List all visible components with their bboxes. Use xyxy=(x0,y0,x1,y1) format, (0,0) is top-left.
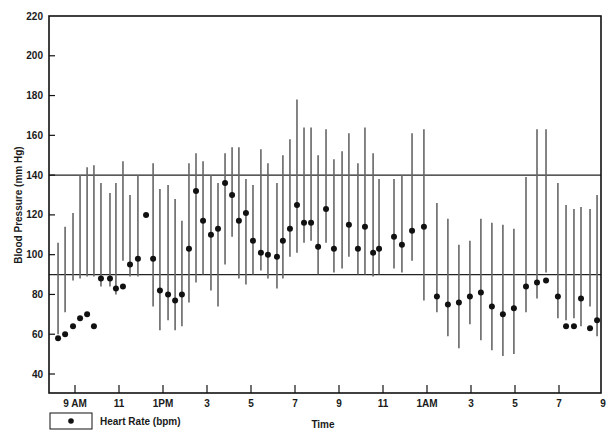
x-tick-label: 11 xyxy=(114,398,125,409)
heart-rate-dot xyxy=(355,246,361,252)
heart-rate-dot xyxy=(91,323,97,329)
heart-rate-dot xyxy=(346,222,352,228)
heart-rate-dot xyxy=(208,232,214,238)
heart-rate-dot xyxy=(534,280,540,286)
heart-rate-dot xyxy=(165,291,171,297)
heart-rate-dot xyxy=(229,192,235,198)
heart-rate-dot xyxy=(587,325,593,331)
heart-rate-dot xyxy=(563,323,569,329)
y-tick-label: 100 xyxy=(26,249,43,260)
heart-rate-dot xyxy=(399,242,405,248)
bp-hr-chart: 4060801001201401601802002209 AM111PM3579… xyxy=(0,0,616,439)
legend-label: Heart Rate (bpm) xyxy=(100,416,181,427)
heart-rate-dot xyxy=(376,246,382,252)
heart-rate-dot xyxy=(331,246,337,252)
heart-rate-dot xyxy=(489,303,495,309)
heart-rate-dot xyxy=(98,276,104,282)
y-tick-label: 40 xyxy=(32,369,44,380)
heart-rate-dot xyxy=(445,301,451,307)
x-tick-label: 1AM xyxy=(416,398,437,409)
heart-rate-dot xyxy=(150,256,156,262)
heart-rate-dot xyxy=(456,299,462,305)
heart-rate-dot xyxy=(301,220,307,226)
heart-rate-dot xyxy=(370,250,376,256)
heart-rate-dot xyxy=(200,218,206,224)
heart-rate-dot xyxy=(55,335,61,341)
y-tick-label: 140 xyxy=(26,170,43,181)
heart-rate-dot xyxy=(362,224,368,230)
heart-rate-dot xyxy=(62,331,68,337)
heart-rate-dot xyxy=(280,238,286,244)
legend-dot-icon xyxy=(68,418,74,424)
x-axis-title: Time xyxy=(311,419,335,430)
y-tick-label: 120 xyxy=(26,209,43,220)
heart-rate-dot xyxy=(500,311,506,317)
heart-rate-dot xyxy=(478,289,484,295)
heart-rate-dot xyxy=(594,317,600,323)
heart-rate-dot xyxy=(113,285,119,291)
heart-rate-dot xyxy=(409,228,415,234)
heart-rate-dot xyxy=(571,323,577,329)
heart-rate-dot xyxy=(391,234,397,240)
y-tick-label: 220 xyxy=(26,11,43,22)
heart-rate-dot xyxy=(236,218,242,224)
heart-rate-dot xyxy=(315,244,321,250)
plot-area xyxy=(49,100,601,357)
heart-rate-dot xyxy=(70,323,76,329)
heart-rate-dot xyxy=(127,262,133,268)
x-tick-label: 9 xyxy=(600,398,606,409)
heart-rate-dot xyxy=(143,212,149,218)
heart-rate-dot xyxy=(258,250,264,256)
axes: 4060801001201401601802002209 AM111PM3579… xyxy=(26,11,606,410)
heart-rate-dot xyxy=(193,188,199,194)
x-tick-label: 7 xyxy=(292,398,298,409)
x-tick-label: 7 xyxy=(556,398,562,409)
heart-rate-dot xyxy=(323,206,329,212)
heart-rate-dot xyxy=(172,297,178,303)
heart-rate-dot xyxy=(215,226,221,232)
heart-rate-dot xyxy=(243,210,249,216)
heart-rate-dot xyxy=(107,276,113,282)
heart-rate-dot xyxy=(274,254,280,260)
heart-rate-dot xyxy=(523,283,529,289)
y-tick-label: 60 xyxy=(32,329,44,340)
y-tick-label: 180 xyxy=(26,90,43,101)
heart-rate-dot xyxy=(555,293,561,299)
heart-rate-dot xyxy=(578,295,584,301)
heart-rate-dot xyxy=(250,238,256,244)
heart-rate-dot xyxy=(157,287,163,293)
heart-rate-dot xyxy=(308,220,314,226)
heart-rate-dot xyxy=(467,293,473,299)
heart-rate-dot xyxy=(179,291,185,297)
y-tick-label: 80 xyxy=(32,289,44,300)
heart-rate-dot xyxy=(543,278,549,284)
x-tick-label: 9 AM xyxy=(63,398,87,409)
x-tick-label: 5 xyxy=(512,398,518,409)
x-tick-label: 11 xyxy=(378,398,389,409)
x-tick-label: 3 xyxy=(204,398,210,409)
heart-rate-dot xyxy=(120,283,126,289)
heart-rate-dot xyxy=(511,305,517,311)
heart-rate-dot xyxy=(287,226,293,232)
legend: Heart Rate (bpm) xyxy=(50,413,181,429)
heart-rate-dot xyxy=(265,252,271,258)
heart-rate-dot xyxy=(84,311,90,317)
heart-rate-dot xyxy=(421,224,427,230)
heart-rate-dot xyxy=(135,256,141,262)
heart-rate-dot xyxy=(294,202,300,208)
x-tick-label: 3 xyxy=(468,398,474,409)
y-tick-label: 160 xyxy=(26,130,43,141)
plot-frame xyxy=(49,16,601,393)
x-tick-label: 1PM xyxy=(153,398,174,409)
heart-rate-dot xyxy=(222,180,228,186)
y-tick-label: 200 xyxy=(26,50,43,61)
heart-rate-dot xyxy=(77,315,83,321)
heart-rate-dot xyxy=(186,246,192,252)
y-axis-title: Blood Pressure (mm Hg) xyxy=(13,146,24,263)
x-tick-label: 5 xyxy=(248,398,254,409)
heart-rate-dot xyxy=(434,293,440,299)
x-tick-label: 9 xyxy=(336,398,342,409)
